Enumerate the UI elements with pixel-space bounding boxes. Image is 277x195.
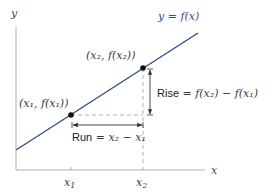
function-label: y = f(x) <box>157 10 199 23</box>
tick-label-x2: x2 <box>136 176 147 190</box>
run-label: Run = x₂ − x₁ <box>72 131 146 144</box>
point-x1-label: (x₁, f(x₁)) <box>19 97 68 110</box>
point-x2-label: (x₂, f(x₂)) <box>86 49 135 62</box>
point-x2 <box>140 65 146 71</box>
slope-diagram: y x x1 x2 y = f(x) (x₁, f(x₁)) (x₂, f(x₂… <box>0 0 277 195</box>
x-axis-label: x <box>211 164 218 177</box>
point-x1 <box>68 112 74 118</box>
tick-label-x1: x1 <box>64 176 75 190</box>
y-axis-label: y <box>10 7 18 20</box>
rise-label: Rise = f(x₂) − f(x₁) <box>157 87 258 100</box>
